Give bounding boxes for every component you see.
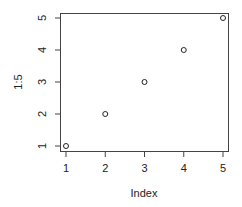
x-axis-label: Index: [131, 187, 158, 199]
x-tick-label: 1: [63, 162, 69, 174]
y-tick-label: 5: [36, 15, 48, 21]
data-points: [64, 16, 226, 149]
x-tick-label: 2: [102, 162, 108, 174]
y-tick-label: 2: [36, 111, 48, 117]
scatter-plot: 12345 12345 Index 1:5: [0, 0, 242, 207]
y-tick-label: 3: [36, 79, 48, 85]
x-tick-label: 4: [181, 162, 187, 174]
data-point: [142, 80, 147, 85]
x-tick-label: 3: [141, 162, 147, 174]
data-point: [64, 144, 69, 149]
data-point: [181, 48, 186, 53]
data-point: [103, 112, 108, 117]
x-axis: 12345: [63, 152, 226, 175]
y-tick-label: 4: [36, 47, 48, 53]
y-axis-label: 1:5: [12, 74, 24, 89]
y-axis: 12345: [36, 15, 61, 149]
y-tick-label: 1: [36, 143, 48, 149]
plot-frame: [61, 14, 229, 152]
data-point: [221, 16, 226, 21]
x-tick-label: 5: [220, 162, 226, 174]
